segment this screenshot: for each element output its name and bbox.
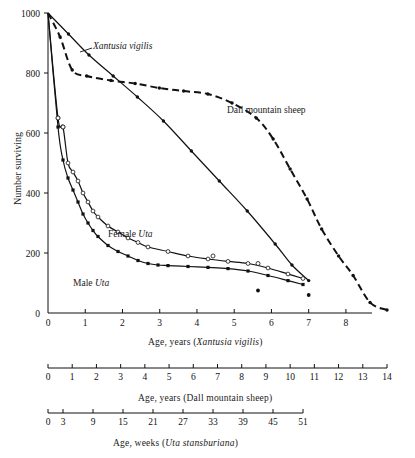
- xantusia-axis-caption-close: ): [259, 337, 262, 347]
- uta-axis-tick-label: 45: [268, 417, 278, 427]
- data-point-filled: [368, 301, 371, 304]
- data-point-open: [106, 224, 110, 228]
- data-point-filled: [81, 212, 84, 215]
- dall-sheep-curve-label: Dall mountain sheep: [227, 105, 306, 115]
- survivorship-figure: 0200400600800100001234567801234567891011…: [0, 0, 415, 458]
- data-point-filled: [67, 32, 70, 35]
- data-point-filled: [307, 279, 310, 282]
- uta-axis-tick-label: 15: [118, 417, 128, 427]
- data-point-filled: [71, 68, 74, 71]
- xantusia-axis-caption-plain: Age, years (: [148, 337, 197, 347]
- y-axis-tick-label: 400: [26, 189, 41, 199]
- data-point-filled: [91, 229, 94, 232]
- data-point-filled: [133, 82, 136, 85]
- data-point-open: [136, 241, 140, 245]
- xantusia-axis-tick-label: 7: [306, 318, 311, 328]
- dall-sheep-axis-tick-label: 4: [142, 372, 147, 382]
- data-point-filled: [106, 244, 109, 247]
- data-point-filled: [266, 274, 269, 277]
- dall-sheep-axis-tick-label: 13: [358, 372, 368, 382]
- uta-axis-tick-label: 9: [91, 417, 96, 427]
- data-point-filled: [111, 74, 114, 77]
- data-point-filled: [255, 116, 258, 119]
- data-point-filled: [206, 92, 209, 95]
- uta-axis-tick-label: 21: [148, 417, 158, 427]
- dall-sheep-axis-tick-label: 11: [310, 372, 319, 382]
- data-point-open: [246, 262, 250, 266]
- data-point-open: [206, 257, 210, 261]
- female-uta-curve-label: Female Uta: [108, 229, 153, 239]
- data-point-filled: [271, 137, 274, 140]
- data-point-filled: [66, 176, 69, 179]
- data-point-open: [301, 277, 305, 281]
- uta-axis-tick-label: 39: [238, 417, 248, 427]
- data-point-filled: [116, 250, 119, 253]
- data-point-open: [81, 191, 85, 195]
- data-point-filled: [320, 227, 323, 230]
- data-point-filled: [206, 266, 209, 269]
- data-point-filled: [56, 125, 59, 128]
- data-point-open: [286, 272, 290, 276]
- male-uta-curve-label: Male Uta: [73, 278, 109, 288]
- dall-sheep-axis-tick-label: 6: [191, 372, 196, 382]
- xantusia-axis-tick-label: 8: [344, 318, 349, 328]
- dall-sheep-axis-caption: Age, years (Dall mountain sheep): [138, 393, 272, 403]
- uta-axis-tick-label: 3: [61, 417, 66, 427]
- data-point-filled: [87, 53, 90, 56]
- data-point-filled: [218, 179, 221, 182]
- uta-axis-tick-label: 33: [208, 417, 218, 427]
- data-point-filled: [86, 221, 89, 224]
- dall-sheep-axis-tick-label: 3: [118, 372, 123, 382]
- data-point-filled: [337, 254, 340, 257]
- y-axis-tick-label: 1000: [21, 9, 40, 19]
- dall-sheep-axis-tick-label: 9: [264, 372, 269, 382]
- dall-sheep-axis-caption-plain: Age, years (Dall mountain sheep): [138, 393, 272, 403]
- data-point-open: [166, 250, 170, 254]
- xantusia-axis-tick-label: 6: [269, 318, 274, 328]
- y-axis-tick-label: 200: [26, 249, 41, 259]
- uta-axis-caption-species: Uta stansburiana: [165, 438, 234, 448]
- female-uta-label-plain: Female: [108, 229, 138, 239]
- data-point-filled: [226, 267, 229, 270]
- data-point-open: [76, 179, 80, 183]
- data-point-open: [226, 260, 230, 264]
- scatter-point-open: [56, 116, 60, 120]
- data-point-filled: [385, 308, 388, 311]
- series-curve: [48, 13, 303, 285]
- data-point-filled: [288, 167, 291, 170]
- data-point-filled: [71, 188, 74, 191]
- dall-sheep-axis-tick-label: 8: [239, 372, 244, 382]
- data-point-filled: [286, 279, 289, 282]
- dall-sheep-axis-tick-label: 5: [167, 372, 172, 382]
- data-point-open: [186, 254, 190, 258]
- data-point-open: [71, 170, 75, 174]
- dall-sheep-axis-tick-label: 7: [215, 372, 220, 382]
- scatter-point-filled: [256, 289, 260, 293]
- male-uta-label-genus: Uta: [95, 278, 109, 288]
- data-point-filled: [246, 269, 249, 272]
- data-point-filled: [186, 265, 189, 268]
- dall-sheep-axis-tick-label: 0: [46, 372, 51, 382]
- scatter-point-open: [256, 262, 260, 266]
- xantusia-axis-tick-label: 0: [46, 318, 51, 328]
- data-point-filled: [246, 209, 249, 212]
- data-point-filled: [96, 235, 99, 238]
- scatter-point-open: [211, 254, 215, 258]
- uta-axis-caption: Age, weeks (Uta stansburiana): [113, 438, 238, 448]
- dall-sheep-axis-tick-label: 12: [334, 372, 344, 382]
- y-axis-tick-label: 800: [26, 69, 41, 79]
- data-point-filled: [85, 74, 88, 77]
- data-point-open: [91, 209, 95, 213]
- uta-axis-caption-close: ): [235, 438, 238, 448]
- dall-sheep-axis-tick-label: 2: [94, 372, 99, 382]
- data-point-filled: [166, 264, 169, 267]
- data-point-filled: [109, 79, 112, 82]
- data-point-filled: [136, 95, 139, 98]
- xantusia-axis-tick-label: 2: [120, 318, 125, 328]
- data-point-filled: [61, 158, 64, 161]
- xantusia-axis-tick-label: 1: [83, 318, 88, 328]
- male-uta-label-plain: Male: [73, 278, 95, 288]
- female-uta-label-genus: Uta: [138, 229, 152, 239]
- data-point-open: [266, 266, 270, 270]
- scatter-point-filled: [307, 293, 311, 297]
